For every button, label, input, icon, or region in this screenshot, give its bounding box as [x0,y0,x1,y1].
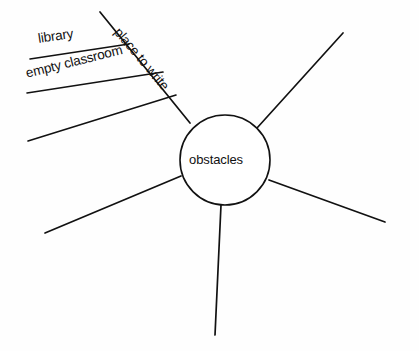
spoke-bottom [215,205,221,335]
diagram-canvas: obstacles library empty classroom place … [0,0,419,351]
spoke-lower-right [269,180,385,222]
spoke-upper-right [257,33,343,128]
spoke-lower-left [45,176,181,233]
center-node-label: obstacles [189,152,243,167]
branch-line-unlabeled-third [28,95,176,141]
spider-diagram-svg [0,0,419,351]
